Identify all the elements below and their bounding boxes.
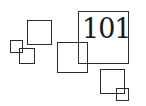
square-small-lower-right [116, 88, 129, 101]
square-upper-left [27, 20, 52, 45]
number-label: 101 [82, 15, 131, 42]
square-small-left-b [19, 48, 35, 64]
logo-graphic: 101 [0, 0, 146, 106]
square-middle [57, 42, 88, 73]
